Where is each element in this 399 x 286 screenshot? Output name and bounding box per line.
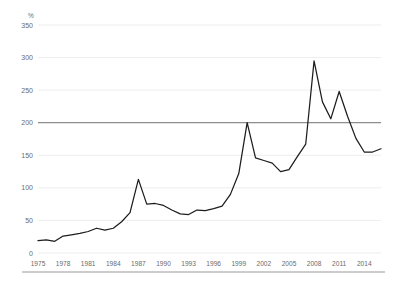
x-axis-tick-labels: 1975197819811984198719901993199619992002… bbox=[31, 260, 372, 267]
y-tick-label: 200 bbox=[21, 119, 33, 126]
x-tick-label: 1999 bbox=[231, 260, 246, 267]
y-tick-label: 300 bbox=[21, 54, 33, 61]
x-tick-label: 2002 bbox=[257, 260, 272, 267]
x-tick-label: 1984 bbox=[106, 260, 121, 267]
x-tick-label: 2008 bbox=[307, 260, 322, 267]
y-axis-unit-label: % bbox=[28, 12, 34, 19]
y-tick-label: 250 bbox=[21, 87, 33, 94]
x-tick-label: 2005 bbox=[282, 260, 297, 267]
x-tick-label: 1993 bbox=[181, 260, 196, 267]
chart-container: 050100150200250300350 197519781981198419… bbox=[0, 0, 399, 286]
y-axis-tick-labels: 050100150200250300350 bbox=[21, 22, 33, 257]
x-tick-label: 1996 bbox=[206, 260, 221, 267]
y-tick-label: 100 bbox=[21, 184, 33, 191]
data-series-line bbox=[38, 61, 381, 241]
x-tick-label: 1990 bbox=[156, 260, 171, 267]
x-tick-label: 1975 bbox=[31, 260, 46, 267]
x-tick-label: 2014 bbox=[357, 260, 372, 267]
line-chart: 050100150200250300350 197519781981198419… bbox=[0, 0, 399, 286]
y-tick-label: 50 bbox=[25, 217, 33, 224]
y-tick-label: 0 bbox=[29, 250, 33, 257]
y-tick-label: 150 bbox=[21, 152, 33, 159]
y-tick-label: 350 bbox=[21, 22, 33, 29]
x-tick-label: 1978 bbox=[56, 260, 71, 267]
x-tick-label: 1981 bbox=[81, 260, 96, 267]
gridlines-group bbox=[38, 25, 381, 253]
x-tick-label: 2011 bbox=[332, 260, 347, 267]
x-tick-label: 1987 bbox=[131, 260, 146, 267]
